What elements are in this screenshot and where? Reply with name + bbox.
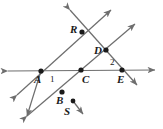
point-R [79, 29, 84, 34]
point-label-D: D [94, 45, 102, 56]
angle-label-1: 1 [50, 75, 55, 84]
point-label-R: R [70, 24, 77, 35]
ray-S [73, 101, 83, 114]
point-D [103, 47, 108, 52]
angle-label-2: 2 [110, 58, 115, 67]
point-C [78, 67, 83, 72]
point-label-C: C [82, 74, 89, 85]
point-label-B: B [56, 95, 63, 106]
point-E [119, 67, 124, 72]
point-label-E: E [117, 74, 124, 85]
geometry-diagram: A B C D E R S 1 2 [0, 0, 163, 129]
point-label-S: S [64, 106, 70, 117]
line-through-R-D-E [70, 10, 137, 85]
point-S [71, 99, 76, 104]
point-label-A: A [34, 74, 41, 85]
geometry-canvas [0, 0, 163, 129]
